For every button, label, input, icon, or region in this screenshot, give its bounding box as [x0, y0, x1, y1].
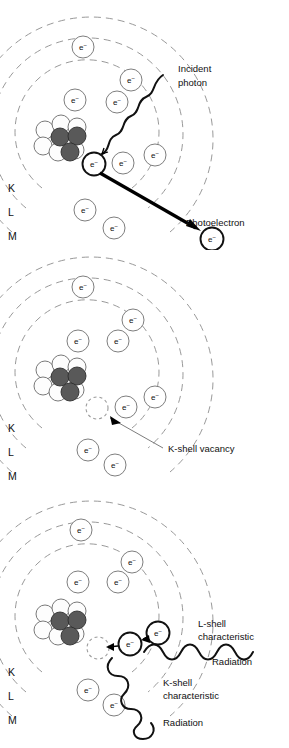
panel-k-shell-vacancy: e− e− e− e− e− e− e− e− — [0, 250, 289, 490]
electron-l-right: e− — [107, 330, 129, 352]
orbit-shells-group — [0, 17, 213, 232]
panel-photoelectric-interaction: e− e− e− e− e− e− e− e− — [0, 0, 289, 250]
shell-label-l: L — [8, 690, 14, 702]
electron-m-upper-right: e− — [121, 551, 143, 573]
shell-label-k: K — [8, 666, 15, 678]
electron-l-right: e− — [107, 571, 129, 593]
nucleus-proton — [51, 368, 69, 386]
electron-l-lower: e− — [77, 679, 99, 701]
electron-m-right: e− — [144, 386, 166, 408]
nucleus-proton — [51, 128, 69, 146]
k-shell-radiation-label-line2: characteristic — [163, 690, 219, 701]
electron-transition-to-k: e− — [119, 633, 142, 656]
electron-l-inner-right: e− — [115, 396, 137, 418]
electron-l-lower: e− — [74, 199, 96, 221]
nucleus-proton — [68, 611, 86, 629]
l-shell-radiation-label-line2: characteristic — [198, 631, 254, 642]
incident-photon-label-line2: photon — [178, 77, 207, 88]
k-shell-vacancy-circle — [86, 397, 108, 419]
electron-m-top: e− — [72, 276, 94, 298]
orbit-arc-l — [0, 278, 183, 448]
nucleus — [34, 355, 86, 401]
electron-m-upper-right: e− — [120, 69, 142, 91]
panel-characteristic-radiation: e− e− e− e− e− e− e− e− — [0, 490, 289, 748]
shell-label-m: M — [8, 470, 17, 482]
electron-k-struck: e− — [83, 153, 106, 176]
photoelectron-label: Photoelectron — [186, 217, 245, 228]
l-shell-radiation-label-line1: L-shell — [198, 618, 226, 629]
electron-l-left: e− — [64, 89, 86, 111]
shell-label-m: M — [8, 714, 17, 726]
k-shell-vacancy-label: K-shell vacancy — [168, 443, 235, 454]
orbit-arc-m — [0, 17, 213, 232]
nucleus-proton — [51, 612, 69, 630]
electron-transition-to-l: e− — [147, 622, 170, 645]
orbit-shells-group — [0, 257, 213, 472]
nucleus — [34, 115, 86, 161]
nucleus — [34, 599, 86, 645]
nucleus-proton — [61, 143, 79, 161]
electron-l-left: e− — [67, 571, 89, 593]
electron-m-upper-right: e− — [122, 309, 144, 331]
electron-m-top: e− — [72, 36, 94, 58]
electron-m-lower: e− — [103, 217, 125, 239]
nucleus-proton — [61, 383, 79, 401]
k-shell-radiation-label-line1: K-shell — [163, 677, 192, 688]
orbit-arc-l — [0, 522, 183, 692]
k-shell-vacancy-circle — [87, 637, 109, 659]
incident-photon-label-line1: Incident — [178, 63, 212, 74]
electron-m-lower: e− — [104, 454, 126, 476]
electron-l-right: e− — [106, 91, 128, 113]
nucleus-proton — [61, 627, 79, 645]
nucleus-proton — [68, 367, 86, 385]
shell-label-m: M — [8, 230, 17, 242]
shell-label-l: L — [8, 446, 14, 458]
shell-label-k: K — [8, 182, 15, 194]
shell-label-k: K — [8, 422, 15, 434]
electron-l-lower: e− — [77, 439, 99, 461]
l-transition-arrowhead — [141, 635, 150, 643]
orbit-arc-l — [0, 38, 183, 208]
electron-l-inner-right: e− — [112, 152, 134, 174]
electron-m-right: e− — [144, 144, 166, 166]
orbit-arc-m — [0, 257, 213, 472]
nucleus-proton — [68, 127, 86, 145]
k-shell-radiation-label-line3: Radiation — [163, 717, 203, 728]
l-shell-radiation-label-line3: Radiation — [212, 656, 252, 667]
shell-label-l: L — [8, 206, 14, 218]
photoelectron-electron: e− — [201, 228, 224, 251]
electron-l-left: e− — [67, 330, 89, 352]
electron-m-top: e− — [70, 519, 92, 541]
